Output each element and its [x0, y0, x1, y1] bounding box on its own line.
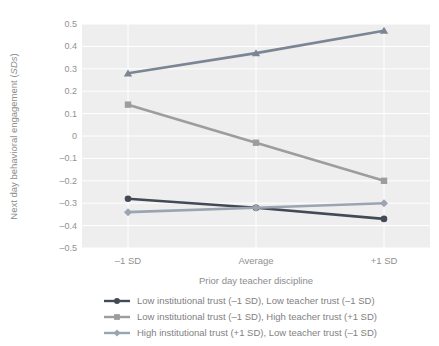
y-tick-label: 0.5	[64, 19, 77, 29]
data-point-marker	[125, 101, 131, 107]
chart-legend: Low institutional trust (–1 SD), Low tea…	[104, 295, 377, 338]
legend-label: High institutional trust (+1 SD), Low te…	[137, 327, 377, 338]
legend-label: Low institutional trust (–1 SD), Low tea…	[137, 295, 375, 306]
legend-label: Low institutional trust (–1 SD), High te…	[137, 311, 377, 322]
data-point-marker	[253, 140, 259, 146]
y-tick-label: 0.3	[64, 64, 77, 74]
y-tick-label: –0.2	[59, 176, 77, 186]
y-tick-label: 0.4	[64, 41, 77, 51]
legend-item: Low institutional trust (–1 SD), Low tea…	[104, 295, 377, 306]
data-point-marker	[125, 195, 132, 202]
y-tick-label: –0.3	[59, 198, 77, 208]
y-tick-label: 0.2	[64, 86, 77, 96]
y-axis-title-italic: SDs	[8, 57, 19, 75]
data-point-marker	[114, 314, 120, 320]
x-tick-label: –1 SD	[115, 255, 142, 266]
legend-swatch-icon	[104, 312, 130, 322]
y-tick-label: –0.5	[59, 243, 77, 253]
y-axis-title-text: Next day behavioral engagement (	[8, 74, 19, 219]
y-tick-label: 0.1	[64, 109, 77, 119]
y-tick-label: –0.1	[59, 153, 77, 163]
y-axis-title: Next day behavioral engagement (SDs)	[8, 12, 21, 262]
legend-swatch-icon	[104, 328, 130, 338]
y-tick-label: –0.4	[59, 221, 77, 231]
y-tick-label: 0	[72, 131, 77, 141]
x-tick-label: Average	[238, 255, 273, 266]
legend-item: Low institutional trust (–1 SD), High te…	[104, 311, 377, 322]
x-axis-title: Prior day teacher discipline	[82, 275, 430, 286]
x-tick-label: +1 SD	[371, 255, 398, 266]
data-point-marker	[381, 216, 388, 223]
legend-swatch-icon	[104, 296, 130, 306]
data-point-marker	[114, 298, 120, 304]
data-point-marker	[381, 178, 387, 184]
data-point-marker	[113, 329, 120, 336]
legend-item: High institutional trust (+1 SD), Low te…	[104, 327, 377, 338]
line-chart-canvas: 0.50.40.30.20.10–0.1–0.2–0.3–0.4–0.5–1 S…	[0, 0, 439, 292]
y-axis-title-suffix: )	[8, 53, 19, 56]
